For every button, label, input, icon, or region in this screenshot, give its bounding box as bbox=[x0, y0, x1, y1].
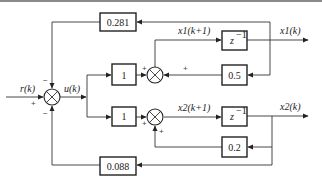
sum2-left-plus-sign: + bbox=[142, 119, 147, 128]
x1-next-line bbox=[155, 40, 221, 67]
x2-out-label: x2(k) bbox=[279, 101, 301, 113]
delay1-block: z −1 bbox=[222, 29, 247, 50]
main-top-minus-sign: − bbox=[43, 76, 48, 85]
u-k-label: u(k) bbox=[64, 83, 81, 95]
sum2-junction bbox=[147, 109, 163, 125]
x1-next-label: x1(k+1) bbox=[177, 25, 211, 37]
b1-gain-block: 1 bbox=[112, 64, 136, 85]
a2-gain-label: 0.2 bbox=[228, 142, 241, 153]
delay2-z-label: z bbox=[229, 111, 234, 122]
k1-to-sum-line bbox=[52, 22, 100, 88]
b2-gain-block: 1 bbox=[112, 107, 136, 126]
block-diagram: 0.281 1 1 z −1 0.5 z −1 0.2 0.088 r(k) u… bbox=[0, 0, 322, 186]
k2-gain-label: 0.088 bbox=[107, 161, 130, 172]
sum1-right-plus-sign: + bbox=[183, 64, 188, 73]
r-k-label: r(k) bbox=[20, 83, 36, 95]
main-summing-junction bbox=[44, 89, 60, 105]
a1-gain-block: 0.5 bbox=[222, 65, 247, 85]
a2-to-sum2-line bbox=[155, 126, 222, 147]
delay2-block: z −1 bbox=[222, 105, 247, 126]
sum1-junction bbox=[147, 67, 163, 83]
sum1-left-plus-sign: + bbox=[142, 64, 147, 73]
main-plus-sign: + bbox=[31, 99, 36, 108]
sum2-bottom-plus-sign: + bbox=[159, 127, 164, 136]
delay2-sup-label: −1 bbox=[236, 105, 247, 116]
b2-gain-label: 1 bbox=[122, 111, 127, 122]
b1-gain-label: 1 bbox=[122, 70, 127, 81]
k2-to-sum-line bbox=[52, 106, 100, 165]
delay1-sup-label: −1 bbox=[236, 29, 247, 40]
a1-gain-label: 0.5 bbox=[228, 70, 241, 81]
k2-gain-block: 0.088 bbox=[100, 157, 136, 175]
k1-gain-block: 0.281 bbox=[100, 13, 136, 31]
x2-next-label: x2(k+1) bbox=[177, 102, 211, 114]
a2-gain-block: 0.2 bbox=[222, 137, 247, 157]
x1-feedback-a-line bbox=[248, 22, 270, 75]
delay1-z-label: z bbox=[229, 35, 234, 46]
k1-gain-label: 0.281 bbox=[107, 17, 130, 28]
x1-out-label: x1(k) bbox=[279, 25, 301, 37]
main-bottom-minus-sign: − bbox=[43, 109, 48, 118]
